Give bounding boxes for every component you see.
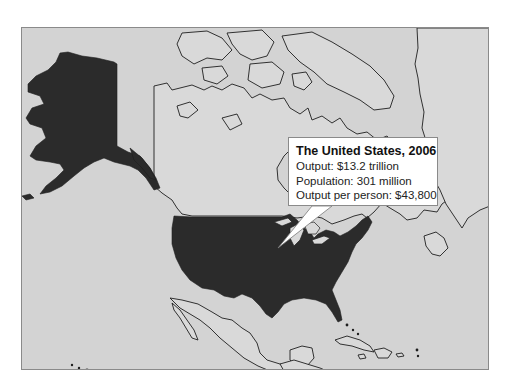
hawaii-island [78,367,80,369]
jamaica [358,354,366,359]
arctic-island-1 [177,31,232,64]
lesser-antilles-island [416,349,419,352]
cuba [335,336,374,352]
bahamas-island [346,324,349,327]
callout-output-per-person: Output per person: $43,800 [296,188,437,203]
lesser-antilles-island [417,355,419,357]
aleutian-island [22,194,34,200]
hispaniola [374,348,392,358]
puerto-rico [396,353,404,357]
baffin-island [282,32,394,110]
arctic-island-3 [248,62,284,88]
callout-box: The United States, 2006 Output: $13.2 tr… [288,137,438,206]
arctic-island-5 [202,66,228,84]
arctic-island-2 [227,30,274,60]
hawaii-big-island [85,369,90,370]
arctic-island-4 [292,72,312,90]
bahamas-island [352,329,354,331]
callout-population: Population: 301 million [296,174,437,189]
callout-output: Output: $13.2 trillion [296,159,437,174]
callout-title: The United States, 2006 [296,144,437,159]
hawaii-island [71,364,73,366]
alaska [26,52,160,194]
bahamas-island [357,333,359,335]
newfoundland [424,232,448,256]
